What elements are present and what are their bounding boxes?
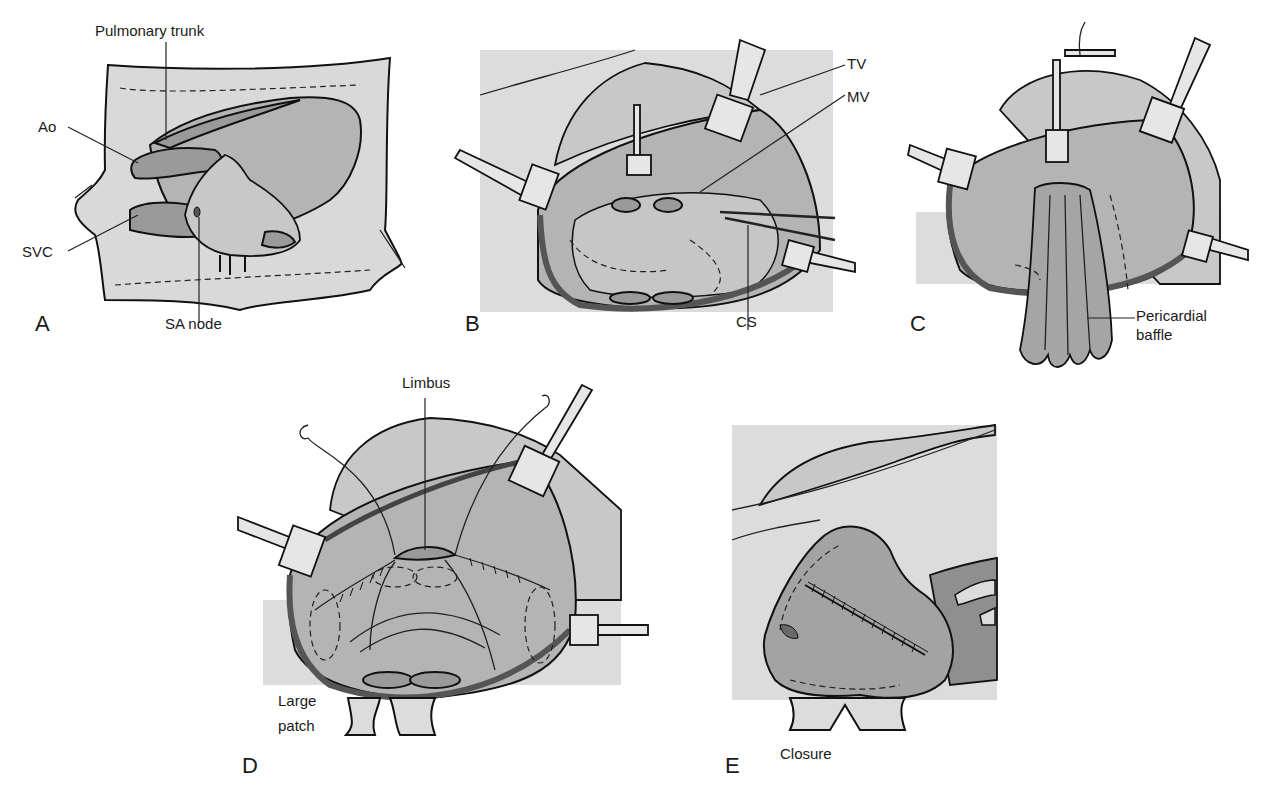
panel-b: TV MV <box>430 0 870 330</box>
label-tv: TV <box>847 55 866 72</box>
heart-exposure-illustration <box>0 0 430 330</box>
panel-d: Limbus Large patch <box>230 380 690 787</box>
panel-letter-d: D <box>242 753 258 779</box>
panel-letter-c: C <box>910 311 926 337</box>
panel-letter-a: A <box>35 311 50 337</box>
label-limbus: Limbus <box>402 374 450 391</box>
label-ao: Ao <box>38 118 56 135</box>
label-closure: Closure <box>780 745 832 762</box>
closure-illustration <box>700 380 1020 787</box>
panel-e: Closure <box>700 380 1020 787</box>
panel-c: Pericardial baffle <box>880 0 1262 380</box>
panel-letter-b: B <box>465 311 480 337</box>
label-pericardial-baffle-2: baffle <box>1136 326 1172 343</box>
label-cs: CS <box>736 313 757 330</box>
label-pulmonary-trunk: Pulmonary trunk <box>95 22 204 39</box>
panel-a: Pulmonary trunk Ao SVC <box>0 0 430 330</box>
label-large-patch-2: patch <box>278 717 315 734</box>
label-large-patch-1: Large <box>278 692 316 709</box>
label-svc: SVC <box>22 243 53 260</box>
atriotomy-illustration <box>430 0 870 330</box>
label-mv: MV <box>847 88 870 105</box>
panel-letter-e: E <box>725 753 740 779</box>
label-pericardial-baffle-1: Pericardial <box>1136 307 1207 324</box>
label-sa-node: SA node <box>165 315 222 332</box>
